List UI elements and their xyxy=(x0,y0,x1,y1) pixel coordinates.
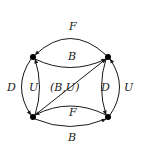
edge-bottom-outer-B xyxy=(35,119,106,127)
label-top-outer: F xyxy=(68,20,77,33)
label-left-outer: D xyxy=(6,81,16,94)
node-bottom-right xyxy=(105,114,111,120)
edge-right-outer-U xyxy=(110,59,120,115)
node-top-right xyxy=(105,54,111,60)
node-top-left xyxy=(30,54,36,60)
label-top-inner: B xyxy=(67,50,76,63)
label-diagonal: (B,U) xyxy=(50,81,79,94)
label-bottom-outer: B xyxy=(67,131,76,144)
label-right-outer: U xyxy=(124,81,134,94)
node-bottom-left xyxy=(30,114,36,120)
label-left-inner: U xyxy=(29,81,39,94)
state-diagram: F B D U (B,U) D U F B xyxy=(0,0,148,148)
label-right-inner: D xyxy=(100,81,110,94)
label-bottom-inner: F xyxy=(68,106,77,119)
